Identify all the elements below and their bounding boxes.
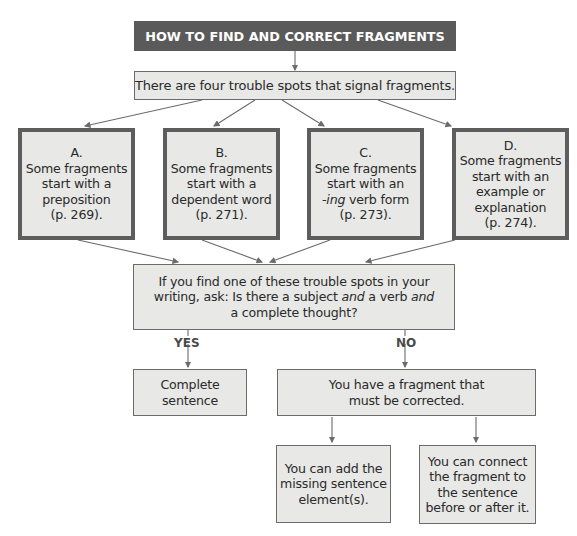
spot-page-ref: (p. 269). xyxy=(50,207,102,223)
result-line: sentence xyxy=(162,393,218,409)
spot-line: Some fragments xyxy=(315,161,417,177)
fix-line: missing sentence xyxy=(280,476,387,492)
diagram-title: HOW TO FIND AND CORRECT FRAGMENTS xyxy=(134,21,456,51)
spot-page-ref: (p. 271). xyxy=(195,207,247,223)
trouble-spot-a: A. Some fragments start with a prepositi… xyxy=(18,128,135,240)
spot-line: Some fragments xyxy=(26,161,128,177)
fix-connect-box: You can connect the fragment to the sent… xyxy=(419,445,536,524)
complete-sentence-box: Complete sentence xyxy=(133,369,247,416)
question-line: a complete thought? xyxy=(231,305,358,321)
fix-line: the fragment to xyxy=(429,469,526,485)
intro-box: There are four trouble spots that signal… xyxy=(134,71,456,100)
emphasis-ing: -ing xyxy=(322,192,345,207)
emphasis-and: and xyxy=(411,289,434,304)
spot-line: Some fragments xyxy=(171,161,273,177)
question-box: If you find one of these trouble spots i… xyxy=(133,264,455,330)
trouble-spot-c: C. Some fragments start with an -ing ver… xyxy=(307,128,424,240)
spot-line: start with a xyxy=(42,176,111,192)
result-line: Complete xyxy=(160,377,219,393)
result-line: must be corrected. xyxy=(349,393,465,409)
question-line: If you find one of these trouble spots i… xyxy=(159,274,430,290)
spot-line-ing: -ing verb form xyxy=(322,192,409,208)
spot-letter: C. xyxy=(359,145,371,161)
fix-line: element(s). xyxy=(298,492,368,508)
spot-letter: A. xyxy=(71,145,83,161)
spot-line: Some fragments xyxy=(460,153,562,169)
result-line: You have a fragment that xyxy=(329,377,484,393)
fix-add-element-box: You can add the missing sentence element… xyxy=(276,445,391,523)
fix-line: You can add the xyxy=(285,461,383,477)
no-label: NO xyxy=(396,336,416,350)
spot-line: explanation xyxy=(475,200,547,216)
spot-letter: B. xyxy=(215,145,227,161)
spot-letter: D. xyxy=(504,138,517,154)
fix-line: the sentence xyxy=(438,485,518,501)
question-text: a verb xyxy=(365,289,412,304)
fix-line: You can connect xyxy=(428,454,528,470)
trouble-spot-b: B. Some fragments start with a dependent… xyxy=(163,128,280,240)
spot-line: start with an xyxy=(327,176,404,192)
spot-line: preposition xyxy=(42,192,110,208)
question-line: writing, ask: Is there a subject and a v… xyxy=(154,289,434,305)
spot-line: start with an xyxy=(472,169,549,185)
trouble-spot-d: D. Some fragments start with an example … xyxy=(452,128,569,240)
intro-text: There are four trouble spots that signal… xyxy=(135,78,455,94)
spot-line: start with a xyxy=(187,176,256,192)
question-text: writing, ask: Is there a subject xyxy=(154,289,342,304)
fix-line: before or after it. xyxy=(426,500,530,516)
spot-page-ref: (p. 274). xyxy=(484,215,536,231)
fragment-box: You have a fragment that must be correct… xyxy=(277,369,536,416)
spot-line: example or xyxy=(476,184,545,200)
spot-page-ref: (p. 273). xyxy=(339,207,391,223)
spot-line: dependent word xyxy=(171,192,271,208)
emphasis-and: and xyxy=(341,289,364,304)
yes-label: YES xyxy=(174,336,200,350)
